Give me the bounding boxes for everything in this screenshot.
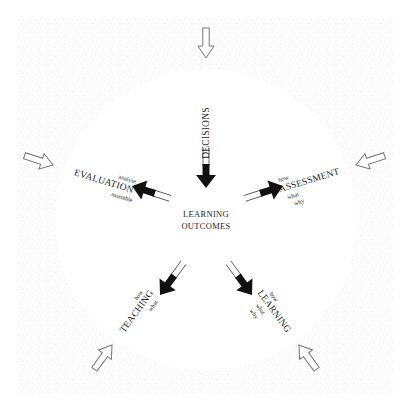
center-label-line2: OUTCOMES	[181, 221, 230, 231]
decisions-label: DECISIONS	[201, 107, 211, 158]
diagram-canvas: LEARNING OUTCOMES DECISIONS EVALUATION a…	[0, 0, 412, 409]
center-label-line1: LEARNING	[183, 209, 229, 219]
diagram-svg: LEARNING OUTCOMES DECISIONS EVALUATION a…	[0, 0, 412, 409]
